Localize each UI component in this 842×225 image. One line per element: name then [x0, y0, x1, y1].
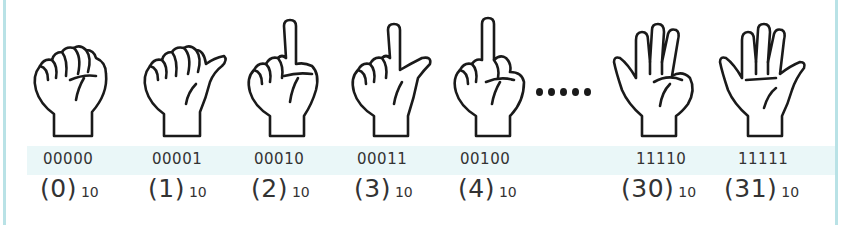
binary-label-31: 11111 — [738, 150, 828, 168]
ellipsis-dots — [536, 84, 591, 100]
decimal-label-3: (3)10 — [354, 174, 413, 203]
base-subscript: 10 — [781, 184, 799, 200]
dot — [560, 88, 567, 96]
binary-label-0: 00000 — [43, 150, 133, 168]
binary-label-1: 00001 — [152, 150, 242, 168]
decimal-label-2: (2)10 — [251, 174, 310, 203]
dot — [572, 88, 579, 96]
base-subscript: 10 — [678, 184, 696, 200]
decimal-label-31: (31)10 — [724, 174, 799, 203]
index-up-hand-icon — [240, 18, 330, 138]
decimal-value: (4) — [458, 174, 495, 203]
decimal-value: (2) — [251, 174, 288, 203]
frame-left-border — [3, 0, 6, 225]
decimal-label-4: (4)10 — [458, 174, 517, 203]
decimal-value: (31) — [724, 174, 777, 203]
decimal-label-30: (30)10 — [621, 174, 696, 203]
dot — [548, 88, 555, 96]
thumb-out-hand-icon — [136, 18, 226, 138]
base-subscript: 10 — [81, 184, 99, 200]
binary-label-2: 00010 — [254, 150, 344, 168]
binary-label-3: 00011 — [357, 150, 447, 168]
base-subscript: 10 — [395, 184, 413, 200]
decimal-value: (3) — [354, 174, 391, 203]
decimal-label-0: (0)10 — [40, 174, 99, 203]
frame-right-border — [835, 0, 838, 225]
dot — [536, 88, 543, 96]
four-fingers-hand-icon — [612, 18, 702, 138]
base-subscript: 10 — [499, 184, 517, 200]
fist-hand-icon — [26, 18, 116, 138]
open-palm-hand-icon — [718, 18, 808, 138]
index-and-thumb-hand-icon — [344, 18, 434, 138]
decimal-value: (30) — [621, 174, 674, 203]
binary-label-30: 11110 — [636, 150, 726, 168]
decimal-value: (0) — [40, 174, 77, 203]
decimal-label-1: (1)10 — [148, 174, 207, 203]
decimal-value: (1) — [148, 174, 185, 203]
base-subscript: 10 — [189, 184, 207, 200]
middle-finger-up-hand-icon — [446, 18, 536, 138]
base-subscript: 10 — [292, 184, 310, 200]
binary-label-4: 00100 — [460, 150, 550, 168]
dot — [584, 88, 591, 96]
